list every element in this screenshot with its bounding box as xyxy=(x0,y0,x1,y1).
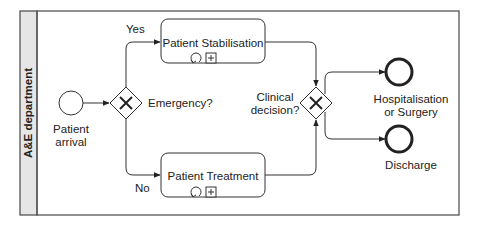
task-stabilisation-label: Patient Stabilisation xyxy=(162,37,263,49)
flow-no xyxy=(126,119,160,175)
start-event-label-1: Patient xyxy=(53,123,90,135)
start-event-label-2: arrival xyxy=(55,136,86,148)
flow-to-discharge xyxy=(325,112,385,139)
task-patient-treatment[interactable]: Patient Treatment xyxy=(161,153,265,197)
end-event-discharge[interactable] xyxy=(386,126,412,152)
flow-stabilisation-to-clinical xyxy=(265,42,316,86)
end-hospitalisation-label-2: or Surgery xyxy=(384,106,438,118)
flow-yes xyxy=(126,42,160,87)
task-patient-stabilisation[interactable]: Patient Stabilisation xyxy=(161,19,265,63)
start-event-patient-arrival[interactable] xyxy=(59,91,83,115)
gateway-clinical-label-1: Clinical xyxy=(256,91,293,103)
flow-treatment-to-clinical xyxy=(265,120,316,175)
end-hospitalisation-label-1: Hospitalisation xyxy=(374,93,449,105)
start-event-circle xyxy=(59,91,83,115)
end-event-circle xyxy=(386,59,412,85)
lane-title: A&E department xyxy=(22,68,34,158)
flow-yes-label: Yes xyxy=(126,23,145,35)
gateway-emergency-label: Emergency? xyxy=(148,97,213,109)
end-event-circle xyxy=(386,126,412,152)
flow-no-label: No xyxy=(135,182,150,194)
flow-to-hospitalisation xyxy=(325,72,385,94)
gateway-clinical-decision[interactable] xyxy=(300,87,332,119)
bpmn-diagram: A&E department Patient arrival Emergency… xyxy=(0,0,479,228)
gateway-emergency[interactable] xyxy=(110,87,142,119)
task-treatment-label: Patient Treatment xyxy=(168,170,260,182)
end-event-hospitalisation[interactable] xyxy=(386,59,412,85)
end-discharge-label: Discharge xyxy=(385,159,437,171)
gateway-clinical-label-2: decision? xyxy=(251,104,300,116)
